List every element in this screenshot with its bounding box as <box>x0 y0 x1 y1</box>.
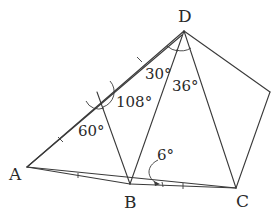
point-label-D: D <box>178 6 192 26</box>
segment-A-C <box>27 167 236 188</box>
segment-D-C <box>184 31 236 188</box>
angle-label-36: 36° <box>172 77 199 95</box>
point-label-A: A <box>8 164 22 184</box>
point-label-C: C <box>236 191 249 211</box>
angle-arc-6 <box>162 182 163 187</box>
segment-E-C <box>236 92 270 188</box>
angle-label-30: 30° <box>145 65 172 83</box>
angle-label-6: 6° <box>157 146 174 164</box>
angle-label-108: 108° <box>116 93 152 111</box>
diagram-canvas: D A B C 108° 60° 30° 36° 6° <box>0 0 276 219</box>
angle-label-60: 60° <box>78 122 105 140</box>
tick-mark-PD <box>137 57 142 62</box>
geometry-diagram: D A B C 108° 60° 30° 36° 6° <box>0 0 276 219</box>
point-label-B: B <box>124 192 137 212</box>
